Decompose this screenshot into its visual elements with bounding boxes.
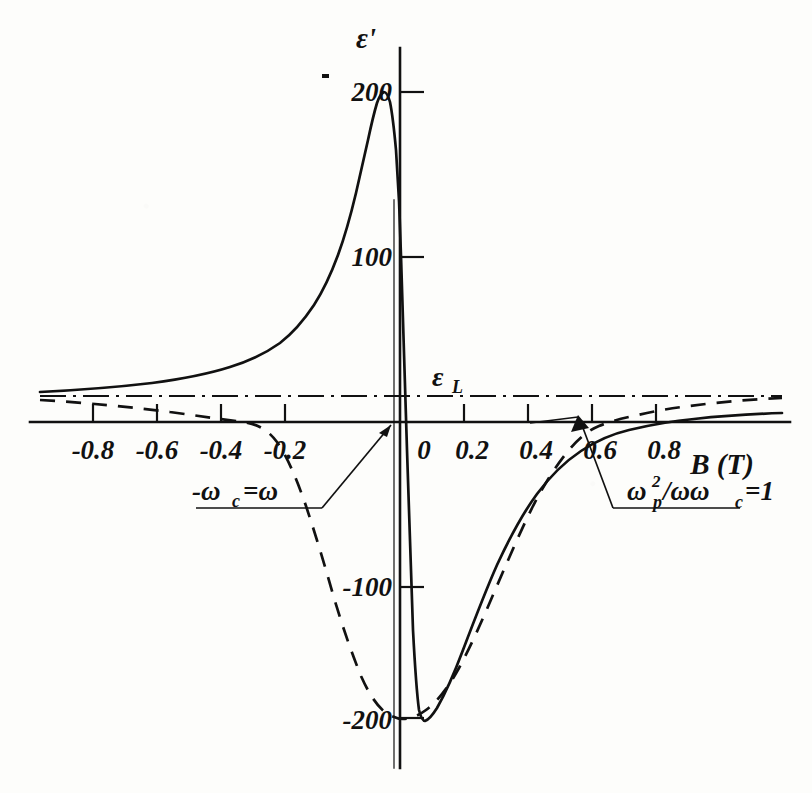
x-tick-label-0-2: 0.2 [455,435,489,465]
plasma-condition-annotation: ω p 2 /ωω c =1 [627,472,774,512]
x-tick-label-0-6: 0.6 [583,435,617,465]
x-tick-label-minus-0-6: -0.6 [136,435,179,465]
solid-curve [40,92,782,721]
x-tick-label-minus-0-2: -0.2 [264,435,307,465]
plasma-annotation-mid: /ωω [661,476,710,506]
plasma-annotation-subscript-c: c [735,492,743,512]
left-annotation-arrowhead [379,425,391,437]
x-tick-label-minus-0-4: -0.4 [200,435,243,465]
epsilon-l-label: ε L [432,361,463,397]
x-tick-label-minus-0-8: -0.8 [72,435,115,465]
y-tick-label-minus-100: -100 [343,572,393,602]
y-axis-title: ε' [356,22,376,54]
x-tick-label-0: 0 [417,435,431,465]
epsilon-l-symbol: ε [432,361,444,392]
plasma-annotation-lead: ω [627,476,647,506]
chart-svg: ε' 200 100 -100 -200 -0.8 -0.6 -0.4 -0.2… [0,0,812,793]
figure-canvas: ε' 200 100 -100 -200 -0.8 -0.6 -0.4 -0.2… [0,0,812,793]
left-annotation-leader [322,425,391,508]
plasma-annotation-subscript-p: p [651,492,662,512]
epsilon-l-subscript: L [451,377,463,397]
x-tick-label-0-4: 0.4 [519,435,553,465]
plasma-annotation-superscript-2: 2 [651,472,661,491]
plasma-annotation-tail: =1 [745,476,774,506]
y-tick-label-minus-200: -200 [343,705,393,735]
x-tick-label-0-8: 0.8 [647,435,681,465]
y-tick-label-100: 100 [352,242,393,272]
stray-ink-mark [322,74,329,78]
y-tick-label-200: 200 [351,77,393,107]
cyclotron-resonance-annotation: -ω c =ω [192,476,278,511]
cyclotron-annotation-tail: =ω [243,476,278,506]
cyclotron-annotation-subscript: c [232,491,240,511]
cyclotron-annotation-lead: -ω [192,476,221,506]
